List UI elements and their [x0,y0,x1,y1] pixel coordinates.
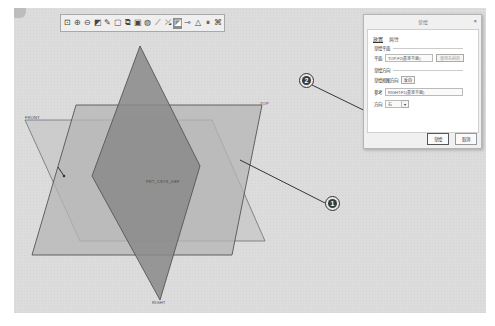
saved-views-icon[interactable]: ◍ [143,18,152,29]
sketch-dialog: 草绘 × 放置 属性 草绘平面 平面 TOP:F2(基准平面) 使用先前的 草绘… [363,14,482,149]
view-toolbar: ⊡ ⊕ ⊖ ◩ ✎ ▢ ⧉ ▣ ◍ ⟋ ⤯ ◪ ⊸ △ ⏸ ⌘ [60,14,225,32]
sketch-plane-section: 草绘平面 [374,45,463,51]
annotation-icon[interactable]: ▢ [113,18,122,29]
tab-placement[interactable]: 放置 [373,35,383,43]
callout-2: 2 [299,73,314,88]
dialog-title: 草绘 [418,18,428,25]
leader-line-1 [240,160,325,203]
callout-number: 2 [302,76,311,85]
view-manager-icon[interactable]: ⟋ [153,18,162,29]
orientation-section: 草绘方向 [374,67,463,73]
reference-label: 参考 [374,89,382,95]
direction-row: 方向 右 ▾ [374,100,409,108]
reference-row: 参考 RIGHT:F1(基准平面) [374,88,463,96]
top-plane-label: TOP [260,101,269,106]
plane-field[interactable]: TOP:F2(基准平面) [385,54,433,62]
axis-display-icon[interactable]: ⊸ [183,18,192,29]
dialog-title-bar[interactable]: 草绘 × [364,15,481,28]
dialog-body: 放置 属性 草绘平面 平面 TOP:F2(基准平面) 使用先前的 草绘方向 草绘… [367,29,479,133]
sketch-ok-button[interactable]: 草绘 [427,133,449,145]
csys-display-icon[interactable]: ⌘ [213,18,222,29]
reference-field[interactable]: RIGHT:F1(基准平面) [385,88,463,96]
dialog-tabs: 放置 属性 [368,30,478,43]
csys-label: PRT_CSYS_DEF [146,179,180,184]
view-direction-label: 草绘视图方向 [374,77,398,83]
pause-icon[interactable]: ⏸ [203,18,212,29]
zoom-window-icon[interactable]: ⧉ [123,18,132,29]
dialog-footer: 草绘 取消 [427,133,477,145]
point-display-icon[interactable]: △ [193,18,202,29]
zoom-out-icon[interactable]: ⊖ [83,18,92,29]
use-previous-button[interactable]: 使用先前的 [436,54,464,62]
callout-number: 1 [328,199,337,208]
sketch-icon[interactable]: ✎ [103,18,112,29]
direction-select[interactable]: 右 [385,100,402,108]
right-plane[interactable] [92,46,200,300]
callout-1: 1 [325,196,340,211]
repaint-icon[interactable]: ◩ [93,18,102,29]
cancel-button[interactable]: 取消 [455,133,477,145]
plane-row: 平面 TOP:F2(基准平面) 使用先前的 [374,54,464,62]
datum-display-icon[interactable]: ⤯ [163,18,172,29]
close-icon[interactable]: × [473,18,477,24]
display-style-icon[interactable]: ▣ [133,18,142,29]
direction-label: 方向 [374,101,382,107]
plane-display-icon[interactable]: ◪ [173,18,182,29]
front-plane-label: FRONT [25,115,40,120]
tab-properties[interactable]: 属性 [389,35,399,43]
flip-button[interactable]: 反向 [401,76,415,84]
chevron-down-icon[interactable]: ▾ [402,100,409,108]
refit-icon[interactable]: ⊡ [63,18,72,29]
right-plane-label: RIGHT [152,300,165,305]
view-direction-row: 草绘视图方向 反向 [374,76,415,84]
zoom-in-icon[interactable]: ⊕ [73,18,82,29]
plane-label: 平面 [374,55,382,61]
